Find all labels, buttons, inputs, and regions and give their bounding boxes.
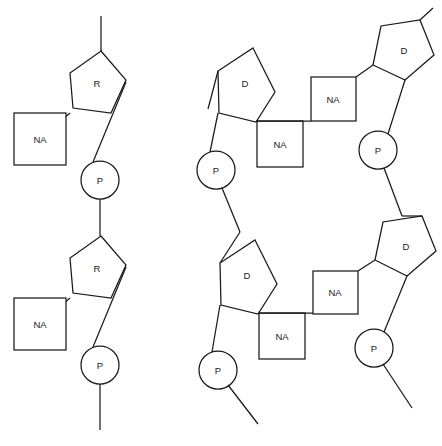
diagram-canvas: R NA P R NA P D NA P NA D P D NA P NA D …: [0, 0, 442, 446]
bond-sugar-up-left-1: [208, 71, 218, 109]
bond-base-sugar-right-1: [356, 65, 373, 77]
bond-phosphate-down-left-1: [222, 188, 240, 232]
bond-base-sugar-right-2: [358, 260, 375, 271]
deoxyribose-pentagon-left-2: [220, 240, 277, 314]
bond-sugar-phosphate-left-1: [210, 113, 218, 152]
bond-phosphate-down-left-2: [228, 385, 258, 424]
structure-single-strand: [14, 16, 126, 430]
bond-sugar-up-right-1: [420, 8, 433, 20]
nucleic-acid-diagram: R NA P R NA P D NA P NA D P D NA P NA D …: [0, 0, 442, 446]
deoxyribose-pentagon-right-2: [375, 216, 436, 276]
bond-phosphate-down-right-2: [383, 364, 412, 408]
base-square-left-2: [259, 313, 305, 359]
phosphate-circle-right-1: [359, 131, 397, 169]
base-square-1: [14, 113, 66, 165]
base-square-2: [14, 298, 66, 350]
base-square-left-1: [257, 121, 303, 167]
bond-sugar-phosphate-right-2: [384, 276, 407, 332]
phosphate-circle-right-2: [355, 329, 393, 367]
base-square-right-2: [313, 271, 358, 314]
deoxyribose-pentagon-left-1: [218, 48, 275, 122]
bond-sugar-phosphate-left-2: [212, 305, 220, 352]
bond-sugar-phosphate-right-1: [388, 80, 405, 134]
structure-double-strand: [197, 8, 436, 424]
deoxyribose-pentagon-right-1: [373, 20, 434, 80]
phosphate-circle-2: [81, 346, 119, 384]
phosphate-circle-left-2: [199, 351, 237, 389]
base-pair-2: [199, 216, 436, 424]
base-square-right-1: [311, 77, 356, 121]
base-pair-1: [197, 8, 434, 232]
nucleotide-unit-1: [14, 16, 126, 236]
bond-phosphate-down-right-1: [384, 168, 402, 216]
phosphate-circle-left-1: [197, 151, 235, 189]
phosphate-circle-1: [81, 161, 119, 199]
nucleotide-unit-2: [14, 236, 126, 430]
